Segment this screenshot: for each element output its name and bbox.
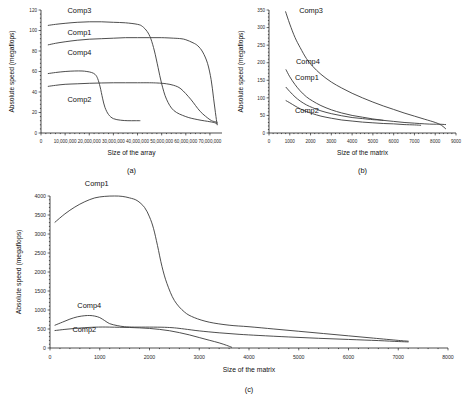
x-tick-label: 60,000,000 [174,139,197,144]
x-tick-label: 0 [49,354,52,360]
x-tick-label: 6000 [343,354,355,360]
y-tick-label: 150 [257,78,265,83]
y-tick-label: 200 [257,60,265,65]
x-tick-label: 30,000,000 [102,139,125,144]
x-tick-label: 3000 [326,139,337,144]
y-tick-label: 0 [34,131,37,136]
x-tick-label: 1000 [94,354,106,360]
series-label-comp2: Comp2 [72,325,96,334]
x-tick-label: 7000 [392,354,404,360]
y-tick-label: 250 [257,43,265,48]
series-label-comp1: Comp1 [68,28,92,37]
y-tick-label: 100 [29,28,37,33]
panel-c: 0500100015002000250030003500400001000200… [8,182,460,399]
panel-b: 0501001502002503003500100020003000400050… [232,0,465,180]
x-tick-label: 8000 [442,354,454,360]
x-tick-label: 50,000,000 [150,139,173,144]
series-curve-comp4 [55,315,408,341]
x-tick-label: 2000 [144,354,156,360]
series-label-comp1: Comp1 [85,179,109,188]
x-tick-label: 70,000,000 [198,139,221,144]
y-tick-label: 2000 [34,269,46,275]
x-tick-label: 9000 [451,139,462,144]
series-label-comp1: Comp1 [295,73,319,82]
series-label-comp4: Comp4 [296,57,320,66]
x-tick-label: 7000 [409,139,420,144]
y-tick-label: 100 [257,96,265,101]
chart-a: 020406080100120010,000,00020,000,00030,0… [0,0,232,180]
x-axis-title: Size of the matrix [223,366,276,373]
panel-caption: (b) [358,166,367,175]
x-tick-label: 40,000,000 [126,139,149,144]
x-tick-label: 8000 [430,139,441,144]
chart-c: 0500100015002000250030003500400001000200… [8,182,460,399]
y-tick-label: 120 [29,8,37,13]
y-tick-label: 2500 [34,250,46,256]
x-axis-title: Size of the array [107,149,156,157]
series-label-comp4: Comp4 [68,48,92,57]
series-label-comp3: Comp3 [299,6,323,15]
series-label-comp3: Comp3 [68,6,92,15]
y-tick-label: 0 [43,345,46,351]
y-tick-label: 60 [32,69,38,74]
y-tick-label: 50 [260,113,266,118]
y-tick-label: 80 [32,49,38,54]
x-tick-label: 5000 [368,139,379,144]
x-tick-label: 10,000,000 [54,139,77,144]
y-tick-label: 40 [32,90,38,95]
x-tick-label: 0 [268,139,271,144]
series-curve-comp2 [48,71,140,121]
x-tick-label: 2000 [305,139,316,144]
y-axis-title: Absolute speed (megaflops) [237,30,245,112]
y-tick-label: 350 [257,8,265,13]
x-tick-label: 6000 [389,139,400,144]
y-tick-label: 3500 [34,212,46,218]
x-tick-label: 4000 [243,354,255,360]
y-tick-label: 20 [32,110,38,115]
chart-b: 0501001502002503003500100020003000400050… [232,0,465,180]
series-curve-comp1 [286,87,383,120]
y-tick-label: 4000 [34,193,46,199]
y-tick-label: 300 [257,25,265,30]
series-curve-comp1 [55,196,408,341]
panel-a: 020406080100120010,000,00020,000,00030,0… [0,0,232,180]
x-tick-label: 4000 [347,139,358,144]
x-tick-label: 1000 [285,139,296,144]
y-axis-title: Absolute speed (megaflops) [15,230,23,315]
series-label-comp4: Comp4 [77,301,101,310]
y-tick-label: 500 [37,326,46,332]
panel-caption: (a) [127,166,136,175]
series-curve-comp3 [48,22,217,124]
y-tick-label: 1500 [34,288,46,294]
y-tick-label: 0 [262,131,265,136]
x-tick-label: 3000 [193,354,205,360]
x-axis-title: Size of the matrix [337,149,389,156]
x-tick-label: 5000 [293,354,305,360]
x-tick-label: 20,000,000 [78,139,101,144]
y-axis-title: Absolute speed (megaflops) [8,30,16,112]
y-tick-label: 3000 [34,231,46,237]
x-tick-label: 0 [40,139,43,144]
y-tick-label: 1000 [34,307,46,313]
series-label-comp2: Comp2 [295,106,319,115]
panel-caption: (c) [245,385,254,394]
series-label-comp2: Comp2 [68,95,92,104]
